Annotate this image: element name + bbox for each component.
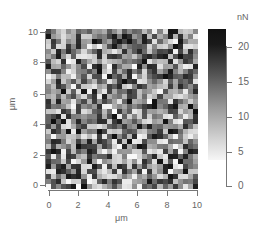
y-tick-label: 0 — [33, 180, 38, 190]
colorbar-tick-label: 20 — [238, 42, 249, 52]
x-tick-mark — [78, 190, 79, 196]
colorbar-tick-label: 5 — [238, 147, 244, 157]
y-tick-mark — [40, 155, 46, 156]
colorbar-tick-label: 10 — [238, 112, 249, 122]
colorbar-tick-mark — [226, 82, 232, 83]
force-map-heatmap — [46, 29, 198, 189]
x-axis-line — [48, 190, 198, 191]
y-tick-mark — [40, 94, 46, 95]
y-axis-label: μm — [7, 98, 17, 111]
colorbar-tick-label: 0 — [238, 181, 244, 191]
y-tick-label: 2 — [33, 150, 38, 160]
x-tick-mark — [49, 190, 50, 196]
x-tick-label: 2 — [76, 200, 81, 210]
x-tick-label: 10 — [192, 200, 202, 210]
x-tick-label: 4 — [106, 200, 111, 210]
y-tick-mark — [40, 62, 46, 63]
colorbar-gradient — [208, 29, 226, 160]
colorbar-unit-label: nN — [237, 12, 249, 22]
y-tick-label: 6 — [33, 89, 38, 99]
x-tick-mark — [197, 190, 198, 196]
colorbar-tick-mark — [226, 186, 232, 187]
y-tick-mark — [40, 124, 46, 125]
colorbar-tick-mark — [226, 152, 232, 153]
y-tick-mark — [40, 32, 46, 33]
x-tick-mark — [108, 190, 109, 196]
colorbar-tick-mark — [226, 47, 232, 48]
x-tick-label: 6 — [135, 200, 140, 210]
y-tick-label: 10 — [28, 27, 38, 37]
y-axis-line — [45, 31, 46, 187]
x-tick-mark — [167, 190, 168, 196]
x-tick-mark — [137, 190, 138, 196]
x-tick-label: 0 — [47, 200, 52, 210]
heatmap-cell — [193, 184, 198, 189]
y-tick-mark — [40, 185, 46, 186]
colorbar-tick-label: 15 — [238, 77, 249, 87]
y-tick-label: 8 — [33, 57, 38, 67]
x-tick-label: 8 — [165, 200, 170, 210]
x-axis-label: μm — [115, 213, 128, 223]
y-tick-label: 4 — [33, 119, 38, 129]
colorbar-tick-mark — [226, 117, 232, 118]
